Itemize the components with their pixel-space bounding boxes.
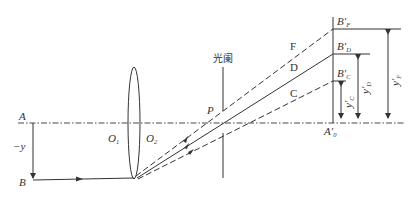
- label-stop: 光阑: [213, 52, 233, 64]
- label-height-C: y′C: [342, 96, 355, 109]
- label-image-F: B′F: [337, 15, 351, 28]
- incident-ray: [33, 178, 134, 180]
- ray-F: [136, 29, 333, 176]
- label-object-height: −y: [13, 140, 25, 152]
- ray-D: [137, 54, 333, 178]
- label-B: B: [19, 176, 26, 188]
- label-height-F: y′F: [389, 74, 402, 87]
- label-ray-D: D: [290, 61, 298, 73]
- incident-ray-arrow-icon: [76, 177, 83, 182]
- label-image-C: B′C: [337, 67, 351, 80]
- label-image-D: B′D: [337, 40, 351, 53]
- label-P: P: [206, 104, 214, 116]
- label-O1: O1: [108, 132, 119, 145]
- label-A: A: [18, 110, 26, 122]
- label-O2: O2: [146, 132, 158, 145]
- ray-C-arrow-icon: [188, 149, 194, 155]
- label-image-axis-point: A′0: [323, 125, 337, 138]
- ray-C: [138, 81, 333, 179]
- label-ray-C: C: [290, 87, 297, 99]
- ray-F-arrow-icon: [183, 136, 188, 143]
- label-height-D: y′D: [359, 82, 372, 95]
- label-ray-F: F: [290, 40, 296, 52]
- optical-diagram: A B −y O1 O2 光阑 P F D C B′F B′D B′C y′C …: [0, 0, 413, 201]
